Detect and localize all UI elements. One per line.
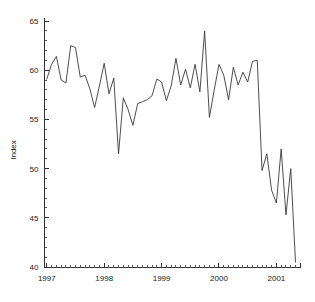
y-axis-tick-label: 55 [30,115,39,124]
y-axis-tick-label: 50 [30,165,39,174]
x-axis-tick-label: 1999 [153,274,171,283]
x-axis-tick-label: 1997 [38,274,56,283]
y-axis-title: Index [9,140,18,160]
y-axis-tick-label: 40 [30,263,39,272]
y-axis: 404550556065 [30,17,49,272]
series-line-1 [47,31,296,262]
data-series-group [47,31,296,262]
x-axis-tick-label: 1998 [95,274,113,283]
y-axis-tick-label: 60 [30,66,39,75]
y-axis-tick-label: 65 [30,17,39,26]
line-chart: 404550556065 19971998199920002001 Index [0,0,315,302]
x-axis-tick-label: 2000 [210,274,228,283]
chart-container: 404550556065 19971998199920002001 Index [0,0,315,302]
x-axis: 19971998199920002001 [38,263,301,283]
x-axis-tick-label: 2001 [267,274,285,283]
y-axis-tick-label: 45 [30,214,39,223]
